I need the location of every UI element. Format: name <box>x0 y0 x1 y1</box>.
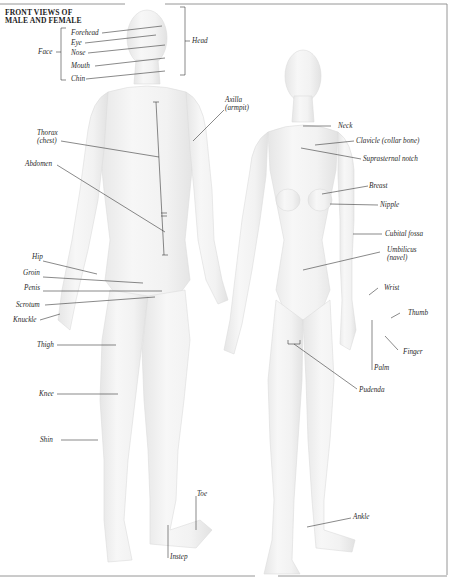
title-line-2: MALE AND FEMALE <box>5 17 82 25</box>
figures-and-leaders <box>0 0 449 578</box>
label-nipple: Nipple <box>380 201 399 209</box>
label-suprasternal-notch: Suprasternal notch <box>363 155 418 163</box>
label-penis: Penis <box>24 284 40 292</box>
label-chin: Chin <box>71 75 85 83</box>
label-abdomen: Abdomen <box>25 160 52 168</box>
female-figure <box>224 50 356 574</box>
male-figure <box>58 10 228 562</box>
label-clavicle: Clavicle (collar bone) <box>356 137 419 145</box>
label-ankle: Ankle <box>353 513 369 521</box>
label-neck: Neck <box>338 122 352 130</box>
label-knee: Knee <box>39 390 54 398</box>
label-toe: Toe <box>197 490 207 498</box>
label-eye: Eye <box>71 39 82 47</box>
label-thorax-line1: Thorax <box>37 129 58 137</box>
label-groin: Groin <box>23 269 40 277</box>
label-mouth: Mouth <box>71 62 90 70</box>
label-cubital-fossa: Cubital fossa <box>385 230 423 238</box>
label-knuckle: Knuckle <box>13 316 37 324</box>
label-umbilicus-line1: Umbilicus <box>387 246 417 254</box>
label-thorax-line2: (chest) <box>37 137 58 145</box>
label-face: Face <box>38 48 52 56</box>
label-axilla-line2: (armpit) <box>225 104 249 112</box>
label-wrist: Wrist <box>384 284 399 292</box>
label-thumb: Thumb <box>408 309 428 317</box>
label-hip: Hip <box>32 253 43 261</box>
label-scrotum: Scrotum <box>16 301 40 309</box>
label-instep: Instep <box>170 553 188 561</box>
label-umbilicus-line2: (navel) <box>387 254 417 262</box>
label-thorax: Thorax (chest) <box>37 129 58 145</box>
label-breast: Breast <box>369 182 388 190</box>
label-umbilicus: Umbilicus (navel) <box>387 246 417 262</box>
label-axilla-line1: Axilla <box>225 96 249 104</box>
label-head: Head <box>192 37 208 45</box>
label-thigh: Thigh <box>37 341 54 349</box>
label-axilla: Axilla (armpit) <box>225 96 249 112</box>
label-palm: Palm <box>374 364 389 372</box>
label-forehead: Forehead <box>71 29 99 37</box>
diagram-title: FRONT VIEWS OF MALE AND FEMALE <box>5 9 82 26</box>
label-finger: Finger <box>403 348 423 356</box>
label-pudenda: Pudenda <box>359 386 385 394</box>
anatomy-diagram: FRONT VIEWS OF MALE AND FEMALE Face Head… <box>0 0 449 578</box>
label-nose: Nose <box>71 49 85 57</box>
label-shin: Shin <box>40 436 53 444</box>
